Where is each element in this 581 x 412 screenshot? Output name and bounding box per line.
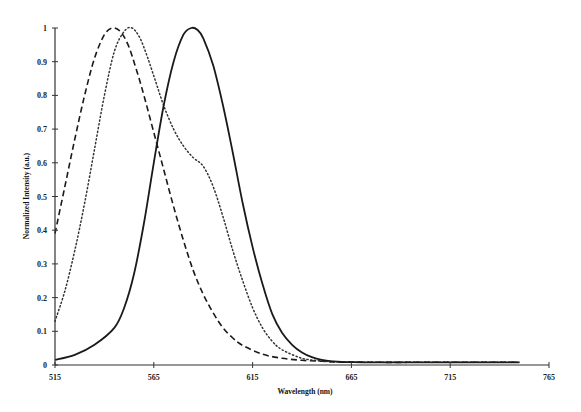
x-axis-title: Wavelength (nm) (277, 387, 333, 396)
y-tick-label: 0.9 (37, 58, 47, 67)
spectrum-chart: 00.10.20.30.40.50.60.70.80.91 5155656156… (0, 0, 581, 412)
x-tick-label: 665 (345, 373, 357, 382)
y-tick-label: 0 (43, 361, 47, 370)
x-tick-label: 765 (543, 373, 555, 382)
series-line-solid (55, 28, 519, 363)
series-line-dashed (55, 28, 519, 362)
y-tick-label: 1 (43, 24, 47, 33)
y-tick-label: 0.5 (37, 193, 47, 202)
x-tick-label: 715 (444, 373, 456, 382)
y-tick-label: 0.6 (37, 159, 47, 168)
y-tick-label: 0.3 (37, 260, 47, 269)
y-tick-label: 0.8 (37, 91, 47, 100)
y-tick-label: 0.2 (37, 294, 47, 303)
x-tick-label: 565 (148, 373, 160, 382)
x-tick-label: 515 (49, 373, 61, 382)
y-axis-title: Normalized Intensity (a.u.) (22, 152, 31, 239)
series-line-dotted (55, 27, 519, 362)
y-tick-label: 0.4 (37, 226, 47, 235)
y-tick-label: 0.1 (37, 327, 47, 336)
plot-lines (55, 27, 519, 362)
x-tick-label: 615 (247, 373, 259, 382)
y-tick-label: 0.7 (37, 125, 47, 134)
